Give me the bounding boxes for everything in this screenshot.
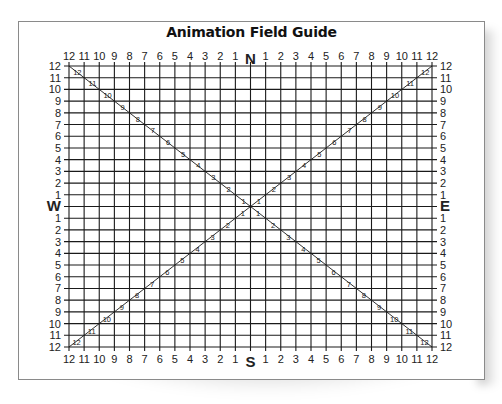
diagonal-label: 11 [88,327,96,336]
bottom-label: 6 [157,353,163,365]
top-label: 2 [217,50,223,62]
bottom-label: 8 [126,353,132,365]
top-label: 3 [202,50,208,62]
left-label: 12 [49,341,61,353]
bottom-label: 10 [93,353,105,365]
right-label: 11 [440,72,451,84]
diagonal-label: 3 [211,233,215,242]
bottom-label: 2 [217,353,223,365]
top-label: 12 [426,50,438,62]
right-label: 11 [440,329,451,341]
diagonal-label: 8 [136,115,140,124]
right-label: 1 [440,212,446,224]
right-label: 5 [440,259,446,271]
diagonal-label: 2 [272,185,276,194]
left-label: 7 [55,119,61,131]
left-label: 6 [55,271,61,283]
left-label: 10 [49,83,61,95]
diagonal-label: 1 [242,197,246,206]
right-label: 4 [440,154,446,166]
left-label: 6 [55,130,61,142]
right-label: 8 [440,294,446,306]
left-label: 11 [50,72,61,84]
right-label: 6 [440,130,446,142]
left-label: 8 [55,294,61,306]
top-label: 9 [384,50,390,62]
diagonal-label: 6 [165,268,169,277]
right-label: 9 [440,306,446,318]
left-label: 8 [55,107,61,119]
right-label: 6 [440,271,446,283]
west-label: W [47,197,62,214]
diagonal-label: 6 [332,138,336,147]
right-label: 4 [440,247,446,259]
diagonal-label: 2 [226,221,230,230]
bottom-label: 5 [172,353,178,365]
left-label: 3 [55,236,61,248]
top-label: 8 [368,50,374,62]
diagonal-label: 2 [226,185,230,194]
diagonal-label: 9 [377,303,381,312]
diagonal-label: 10 [103,315,111,324]
north-label: N [245,50,256,67]
right-label: 12 [440,60,452,72]
bottom-label: 9 [384,353,390,365]
diagonal-label: 5 [317,150,321,159]
south-label: S [245,353,255,370]
right-label: 8 [440,107,446,119]
diagonal-label: 9 [120,303,124,312]
top-label: 5 [172,50,178,62]
diagonal-label: 4 [196,161,200,170]
diagonal-label: 7 [151,126,155,135]
diagonal-label: 3 [211,173,215,182]
diagonal-label: 6 [332,268,336,277]
top-label: 11 [411,50,422,62]
left-label: 9 [55,95,61,107]
east-label: E [440,197,450,214]
top-label: 1 [263,50,269,62]
diagonal-label: 12 [73,68,81,77]
left-label: 5 [55,259,61,271]
diagonal-label: 2 [271,221,275,230]
top-label: 2 [278,50,284,62]
diagonal-label: 4 [195,245,199,254]
left-label: 12 [49,60,61,72]
right-label: 9 [440,95,446,107]
top-label: 6 [338,50,344,62]
top-label: 6 [157,50,163,62]
diagonal-label: 12 [72,338,80,347]
diagonal-label: 3 [286,233,290,242]
top-label: 7 [353,50,359,62]
diagonal-label: 11 [406,79,414,88]
top-label: 7 [142,50,148,62]
right-label: 3 [440,165,446,177]
top-label: 10 [396,50,408,62]
bottom-label: 3 [202,353,208,365]
diagonal-label: 10 [391,91,399,100]
right-label: 5 [440,142,446,154]
top-label: 8 [126,50,132,62]
diagonal-label: 5 [180,256,184,265]
left-label: 11 [50,329,61,341]
diagonal-label: 7 [150,280,154,289]
bottom-label: 11 [411,353,422,365]
diagonal-label: 8 [363,115,367,124]
right-label: 3 [440,236,446,248]
bottom-label: 10 [396,353,408,365]
diagonal-label: 10 [103,91,111,100]
bottom-label: 4 [308,353,314,365]
left-label: 9 [55,306,61,318]
bottom-label: 5 [323,353,329,365]
right-label: 10 [440,83,452,95]
diagonal-label: 10 [390,315,398,324]
bottom-label: 7 [142,353,148,365]
right-label: 10 [440,318,452,330]
top-label: 4 [308,50,314,62]
right-label: 2 [440,177,446,189]
top-label: 9 [111,50,117,62]
top-label: 1 [232,50,238,62]
left-label: 10 [49,318,61,330]
top-label: 4 [187,50,193,62]
bottom-label: 8 [368,353,374,365]
diagonal-label: 11 [405,327,413,336]
